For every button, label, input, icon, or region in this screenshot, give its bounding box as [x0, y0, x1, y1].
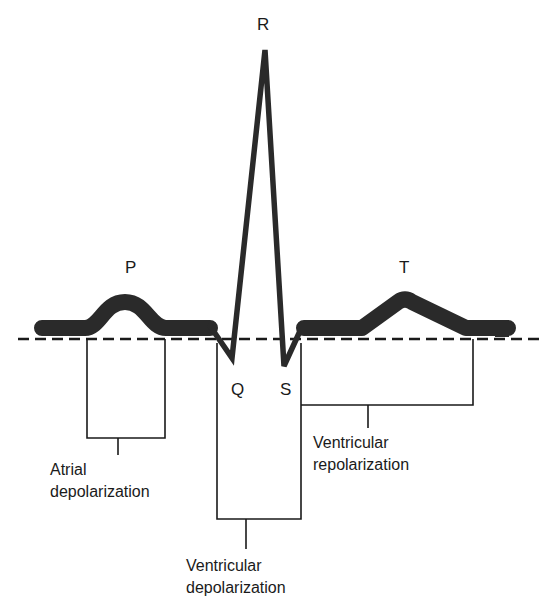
label-atrial-line2: depolarization	[50, 481, 150, 503]
atrial-depolarization-bracket	[87, 339, 165, 455]
t-wave-end-cap	[495, 320, 509, 337]
label-atrial-depolarization: Atrial depolarization	[50, 459, 150, 503]
wave-label-p: P	[125, 259, 136, 276]
label-vrepol-line1: Ventricular	[313, 432, 409, 454]
wave-label-t: T	[399, 259, 409, 276]
wave-label-s: S	[280, 381, 291, 398]
p-wave-trace	[42, 302, 210, 328]
wave-label-r: R	[257, 16, 269, 33]
ventricular-depolarization-bracket	[217, 343, 301, 549]
ecg-diagram	[0, 0, 550, 614]
label-ventricular-depolarization: Ventricular depolarization	[186, 555, 286, 599]
label-vdepol-line2: depolarization	[186, 577, 286, 599]
t-wave-trace	[304, 300, 508, 329]
ventricular-repolarization-bracket	[301, 339, 473, 428]
label-atrial-line1: Atrial	[50, 459, 150, 481]
qrs-complex-trace	[210, 50, 300, 366]
label-ventricular-repolarization: Ventricular repolarization	[313, 432, 409, 476]
wave-label-q: Q	[231, 381, 244, 398]
label-vdepol-line1: Ventricular	[186, 555, 286, 577]
label-vrepol-line2: repolarization	[313, 454, 409, 476]
